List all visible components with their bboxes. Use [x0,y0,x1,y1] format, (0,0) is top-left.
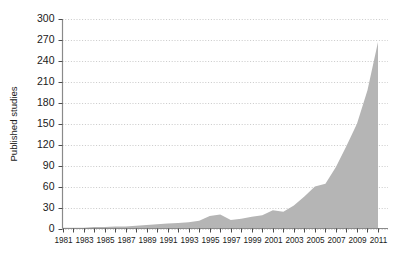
y-tick-label-150: 150 [37,117,55,129]
x-tick-label-1983: 1983 [75,236,94,245]
x-tick-label-1981: 1981 [54,236,73,245]
x-tick-label-2001: 2001 [264,236,283,245]
x-tick-label-1995: 1995 [201,236,220,245]
y-tick-label-300: 300 [37,12,55,24]
x-tick-label-1987: 1987 [117,236,136,245]
y-tick-label-30: 30 [43,201,55,213]
published-studies-area-chart: 0306090120150180210240270300 19811983198… [0,0,402,258]
x-tick-label-1999: 1999 [243,236,262,245]
y-tick-label-240: 240 [37,54,55,66]
y-tick-label-0: 0 [49,222,55,234]
y-tick-label-210: 210 [37,75,55,87]
x-tick-label-2003: 2003 [285,236,304,245]
x-tick-label-1997: 1997 [222,236,241,245]
y-tick-label-270: 270 [37,33,55,45]
y-tick-label-90: 90 [43,159,55,171]
x-tick-label-1985: 1985 [96,236,115,245]
x-tick-label-1991: 1991 [159,236,178,245]
x-tick-label-1989: 1989 [138,236,157,245]
y-tick-label-60: 60 [43,180,55,192]
x-tick-label-2007: 2007 [327,236,346,245]
y-axis-title: Published studies [8,86,19,161]
x-tick-label-2009: 2009 [348,236,367,245]
chart-canvas: 0306090120150180210240270300 19811983198… [0,0,402,258]
x-tick-label-2011: 2011 [370,236,388,245]
x-tick-label-2005: 2005 [306,236,325,245]
y-tick-label-120: 120 [37,138,55,150]
y-tick-label-180: 180 [37,96,55,108]
x-tick-label-1993: 1993 [180,236,199,245]
